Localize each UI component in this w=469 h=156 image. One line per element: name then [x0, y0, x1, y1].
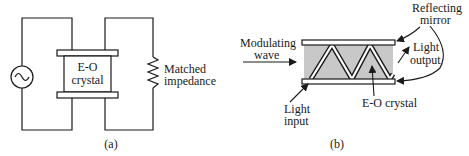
- output-label-line2: output: [410, 53, 441, 67]
- bottom-electrode: [57, 92, 118, 98]
- light-output-arrow: [398, 47, 409, 63]
- modulating-label-line2: wave: [254, 48, 279, 62]
- caption-a: (a): [104, 137, 117, 151]
- input-label-line2: input: [284, 114, 309, 128]
- crystal-label-line2: crystal: [72, 73, 105, 87]
- top-mirror: [302, 40, 395, 45]
- light-input-arrow: [290, 84, 308, 102]
- mirror-top-arrow: [397, 27, 420, 41]
- top-electrode: [57, 50, 118, 56]
- impedance-label-line2: impedance: [164, 74, 216, 88]
- caption-b: (b): [330, 137, 344, 151]
- crystal-label-line1: E-O: [78, 60, 98, 74]
- bottom-mirror: [302, 79, 395, 84]
- ac-source-icon: [11, 66, 33, 88]
- resistor-icon: [148, 57, 158, 88]
- mirror-label-line2: mirror: [420, 13, 451, 27]
- diagram-canvas: E-O crystal Matched impedance (a) Modula…: [0, 0, 469, 156]
- right-loop-wire: [105, 18, 153, 130]
- output-label-line1: Light: [413, 40, 440, 54]
- crystal-b-label: E-O crystal: [362, 96, 418, 110]
